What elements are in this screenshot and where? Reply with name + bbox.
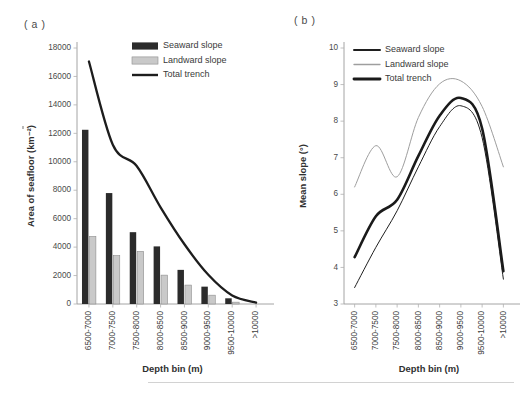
bar-landward-slope — [233, 302, 239, 304]
y-tick-label-a: 4000 — [53, 242, 72, 251]
y-tick-label-b: 10 — [329, 43, 339, 52]
x-tick-label-a: >10000 — [251, 311, 260, 339]
bar-landward-slope — [161, 275, 167, 304]
y-tick-label-b: 9 — [333, 80, 338, 89]
bar-seaward-slope — [106, 193, 112, 304]
legend-label-a: Landward slope — [163, 55, 227, 65]
y-tick-label-a: 16000 — [48, 72, 71, 81]
x-tick-label-b: 7500-8000 — [392, 311, 401, 351]
x-axis-title-b: Depth bin (m) — [399, 363, 459, 374]
x-tick-label-b: 9500-10000 — [477, 311, 486, 355]
scan-speck — [22, 126, 24, 129]
y-tick-label-a: 18000 — [48, 43, 71, 52]
panel-b-plot: 3456789106500-70007000-75007500-80008000… — [282, 0, 528, 396]
legend-swatch-a — [132, 57, 158, 64]
x-tick-label-a: 8500-9000 — [180, 311, 189, 351]
chart-panel-a: ( a ) 0200040006000800010000120001400016… — [0, 0, 282, 396]
y-tick-label-a: 10000 — [48, 157, 71, 166]
y-tick-label-b: 6 — [333, 189, 338, 198]
bar-landward-slope — [185, 285, 191, 304]
x-tick-label-b: 8500-9000 — [435, 311, 444, 351]
y-tick-label-a: 2000 — [53, 271, 72, 280]
x-tick-label-a: 9500-10000 — [227, 311, 236, 355]
legend-label-a: Seaward slope — [163, 40, 223, 50]
x-tick-label-a: 8000-8500 — [156, 311, 165, 351]
y-tick-label-b: 8 — [333, 116, 338, 125]
y-tick-label-a: 0 — [66, 299, 71, 308]
bar-seaward-slope — [177, 270, 183, 304]
x-tick-label-b: 6500-7000 — [350, 311, 359, 351]
x-tick-label-b: 9000-9500 — [456, 311, 465, 351]
legend-swatch-a — [132, 42, 158, 49]
bar-landward-slope — [137, 251, 143, 304]
y-tick-label-b: 7 — [333, 153, 338, 162]
figure-container: ( a ) 0200040006000800010000120001400016… — [0, 0, 528, 396]
bar-seaward-slope — [130, 232, 136, 304]
x-tick-label-b: 7000-7500 — [371, 311, 380, 351]
footer-divider — [148, 382, 514, 383]
bar-seaward-slope — [82, 130, 88, 304]
legend-label-b: Landward slope — [385, 59, 449, 69]
y-tick-label-b: 3 — [333, 299, 338, 308]
y-tick-label-b: 4 — [333, 263, 338, 272]
y-axis-title-b: Mean slope (°) — [297, 144, 308, 208]
chart-panel-b: ( b ) 3456789106500-70007000-75007500-80… — [282, 0, 528, 396]
x-axis-title-a: Depth bin (m) — [142, 363, 202, 374]
y-tick-label-a: 8000 — [53, 185, 72, 194]
panel-a-plot: 0200040006000800010000120001400016000180… — [0, 0, 282, 396]
y-tick-label-b: 5 — [333, 226, 338, 235]
x-tick-label-b: >10000 — [499, 311, 508, 339]
legend-label-b: Total trench — [385, 73, 432, 83]
bar-landward-slope — [209, 295, 215, 304]
legend-label-a: Total trench — [163, 69, 210, 79]
y-tick-label-a: 6000 — [53, 214, 72, 223]
x-tick-label-a: 9000-9500 — [203, 311, 212, 351]
x-tick-label-a: 7000-7500 — [108, 311, 117, 351]
y-tick-label-a: 12000 — [48, 129, 71, 138]
bar-seaward-slope — [154, 246, 160, 304]
y-axis-title-a: Area of seafloor (km⁻²) — [25, 125, 36, 227]
bar-seaward-slope — [225, 298, 231, 304]
x-tick-label-a: 6500-7000 — [84, 311, 93, 351]
x-tick-label-b: 8000-8500 — [414, 311, 423, 351]
y-tick-label-a: 14000 — [48, 100, 71, 109]
bar-landward-slope — [89, 236, 95, 304]
bar-seaward-slope — [201, 287, 207, 304]
x-tick-label-a: 7500-8000 — [132, 311, 141, 351]
legend-label-b: Seaward slope — [385, 44, 445, 54]
bar-landward-slope — [113, 256, 119, 304]
